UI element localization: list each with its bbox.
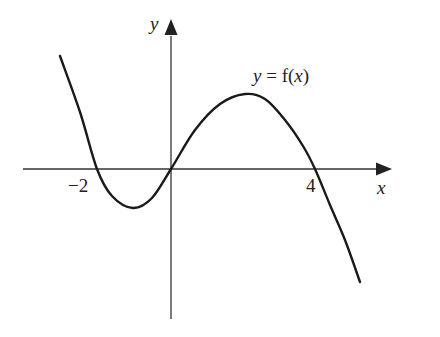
x-axis-label: x bbox=[377, 178, 385, 197]
x-axis-arrow-icon bbox=[376, 163, 392, 176]
function-graph bbox=[0, 0, 440, 337]
curve-label-x: x bbox=[294, 65, 302, 86]
curve-label-close: ) bbox=[303, 65, 309, 86]
tick-label-4: 4 bbox=[306, 176, 316, 195]
tick-label-neg2: −2 bbox=[68, 176, 88, 195]
curve-label: y = f(x) bbox=[253, 66, 309, 85]
y-axis-arrow-icon bbox=[165, 19, 178, 35]
curve-label-eq: = f( bbox=[261, 65, 294, 86]
y-axis-label: y bbox=[150, 14, 158, 33]
